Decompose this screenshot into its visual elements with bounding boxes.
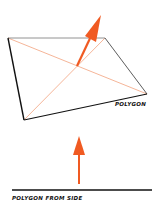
- polygon-edge-left: [8, 38, 24, 120]
- diagonal-2: [24, 38, 105, 120]
- diagram-canvas: [0, 0, 165, 215]
- polygon-edge-bottom: [24, 94, 147, 120]
- polygon-label: POLYGON: [115, 101, 146, 107]
- side-normal-arrow-icon: [73, 136, 85, 184]
- polygon-side-label: POLYGON FROM SIDE: [12, 195, 83, 201]
- normal-arrow-icon: [77, 15, 101, 66]
